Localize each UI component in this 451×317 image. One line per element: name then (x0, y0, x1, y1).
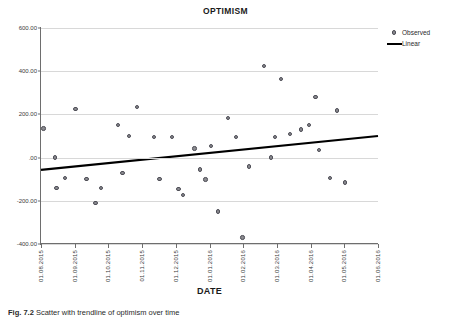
x-tick-label: 01.05.2016 (341, 250, 347, 282)
x-tick-mark (210, 244, 211, 248)
x-tick-mark (243, 244, 244, 248)
linear-line-icon (386, 43, 402, 45)
y-tick-label: 200.00 (19, 111, 41, 117)
x-tick-mark (176, 244, 177, 248)
figure-container: OPTIMISM 600.00400.00200.00.00-200.00-40… (0, 0, 451, 317)
data-point (54, 186, 58, 190)
data-point (307, 123, 311, 127)
figure-caption: Fig. 7.2 Scatter with trendline of optim… (8, 308, 448, 317)
x-tick-label: 01.02.2016 (240, 250, 246, 282)
data-point (176, 187, 180, 191)
y-tick-label: -400.00 (17, 241, 41, 247)
legend-label-linear: Linear (402, 40, 420, 47)
data-point (279, 77, 283, 81)
linear-trendline (41, 28, 378, 244)
plot-area: 600.00400.00200.00.00-200.00-400.0001.08… (41, 28, 378, 244)
x-tick-label: 01.12.2015 (173, 250, 179, 282)
gridline-y (41, 201, 378, 202)
legend-item-observed: Observed (386, 27, 450, 38)
y-tick-label: 400.00 (19, 68, 41, 74)
data-point (192, 146, 196, 150)
data-point (203, 177, 207, 181)
data-point (269, 155, 273, 159)
x-tick-label: 01.06.2016 (375, 250, 381, 282)
x-tick-mark (277, 244, 278, 248)
x-tick-label: 01.09.2015 (72, 250, 78, 282)
data-point (299, 127, 303, 131)
legend-label-observed: Observed (402, 29, 430, 36)
data-point (240, 235, 244, 239)
chart-legend: Observed Linear (386, 27, 450, 49)
data-point (93, 201, 97, 205)
x-tick-mark (344, 244, 345, 248)
data-point (335, 108, 339, 112)
data-point (343, 180, 347, 184)
x-tick-label: 01.04.2016 (308, 250, 314, 282)
x-tick-mark (142, 244, 143, 248)
data-point (198, 167, 202, 171)
legend-item-linear: Linear (386, 38, 450, 49)
x-tick-mark (41, 244, 42, 248)
caption-label: Fig. 7.2 (8, 308, 34, 317)
y-tick-label: .00 (29, 155, 41, 161)
x-tick-mark (311, 244, 312, 248)
gridline-y (41, 71, 378, 72)
data-point (120, 171, 124, 175)
gridline-y (41, 28, 378, 29)
y-tick-label: 600.00 (19, 25, 41, 31)
x-tick-label: 01.08.2015 (38, 250, 44, 282)
x-tick-mark (75, 244, 76, 248)
data-point (73, 107, 77, 111)
x-tick-label: 01.10.2015 (105, 250, 111, 282)
x-tick-label: 01.11.2015 (139, 250, 145, 282)
x-tick-label: 01.01.2016 (207, 250, 213, 282)
data-point (216, 209, 220, 213)
x-tick-mark (378, 244, 379, 248)
x-tick-mark (108, 244, 109, 248)
chart-title: OPTIMISM (0, 6, 451, 16)
x-tick-label: 01.03.2016 (274, 250, 280, 282)
data-point (41, 126, 45, 130)
data-point (84, 177, 88, 181)
gridline-y (41, 114, 378, 115)
y-tick-label: -200.00 (17, 198, 41, 204)
observed-dot-icon (386, 30, 402, 34)
gridline-y (41, 158, 378, 159)
x-axis-title: DATE (41, 286, 378, 296)
caption-text: Scatter with trendline of optimism over … (36, 308, 179, 317)
